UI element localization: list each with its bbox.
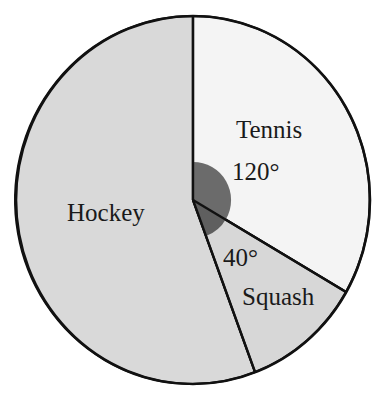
pie-chart: Tennis 120° Hockey 40° Squash xyxy=(0,0,384,406)
label-hockey: Hockey xyxy=(67,199,145,226)
label-tennis: Tennis xyxy=(236,116,302,143)
label-tennis-angle: 120° xyxy=(232,158,280,185)
label-squash: Squash xyxy=(242,283,315,310)
label-squash-angle: 40° xyxy=(223,244,258,271)
